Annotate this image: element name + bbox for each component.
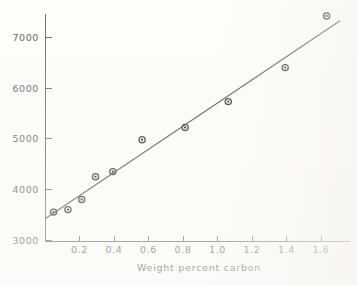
y-axis-tick-labels: 7000 6000 5000 4000 3000 xyxy=(12,32,39,246)
x-axis-ticks xyxy=(80,236,322,242)
scatter-plot: 7000 6000 5000 4000 3000 0.2 0.4 0.6 0.8… xyxy=(0,0,357,285)
figure-container: 7000 6000 5000 4000 3000 0.2 0.4 0.6 0.8… xyxy=(0,0,357,285)
data-point xyxy=(282,65,288,71)
x-tick-label-0-2: 0.2 xyxy=(71,244,88,255)
x-tick-label-1-2: 1.2 xyxy=(244,244,261,255)
fitted-regression-line xyxy=(46,21,341,219)
data-point xyxy=(139,137,145,143)
data-point xyxy=(324,13,330,19)
y-tick-label-7000: 7000 xyxy=(12,32,39,43)
y-tick-label-6000: 6000 xyxy=(12,83,39,94)
y-tick-label-4000: 4000 xyxy=(12,184,39,195)
axes-group xyxy=(46,14,351,242)
y-axis-ticks xyxy=(46,38,52,241)
data-point xyxy=(79,196,85,202)
x-tick-label-1-0: 1.0 xyxy=(209,244,226,255)
y-tick-label-3000: 3000 xyxy=(12,235,39,246)
x-tick-label-1-6: 1.6 xyxy=(313,244,330,255)
x-tick-label-1-4: 1.4 xyxy=(278,244,295,255)
y-tick-label-5000: 5000 xyxy=(12,133,39,144)
x-tick-label-0-8: 0.8 xyxy=(175,244,192,255)
data-point xyxy=(65,207,71,213)
data-point xyxy=(92,174,98,180)
x-tick-label-0-4: 0.4 xyxy=(106,244,123,255)
data-points-group xyxy=(51,13,330,215)
x-tick-label-0-6: 0.6 xyxy=(140,244,157,255)
data-point xyxy=(225,99,231,105)
x-axis-title: Weight percent carbon xyxy=(137,262,261,273)
x-axis-tick-labels: 0.2 0.4 0.6 0.8 1.0 1.2 1.4 1.6 xyxy=(71,244,329,255)
